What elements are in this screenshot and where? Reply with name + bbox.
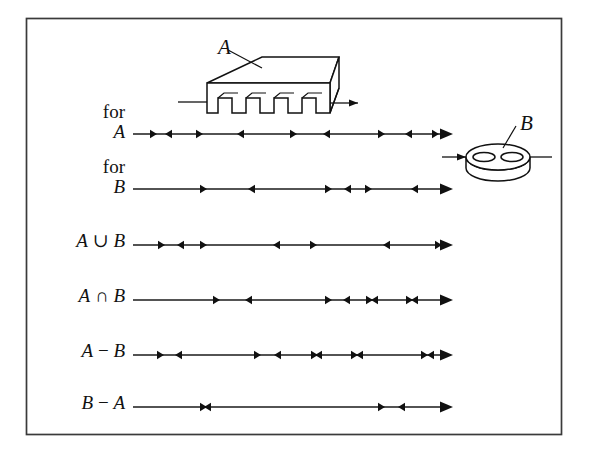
tick-mark (405, 130, 412, 138)
tick-mark (378, 130, 385, 138)
tick-mark (365, 185, 372, 193)
tick-mark (343, 296, 350, 304)
tick-mark (177, 241, 184, 249)
row-label-glyph: − (98, 340, 109, 361)
tick-mark (254, 351, 261, 359)
tick-mark (378, 403, 385, 411)
row-label-glyph: A (76, 230, 88, 251)
row-label-primary: for (15, 157, 125, 177)
row-label-a-union-b: A ∪ B (15, 231, 125, 251)
timelines-layer (133, 129, 453, 413)
timeline-for-b (133, 184, 453, 195)
row-label-secondary: A (15, 122, 125, 142)
tick-mark (411, 296, 418, 304)
tick-mark (200, 241, 207, 249)
tick-mark (310, 241, 317, 249)
row-label-glyph: A (79, 285, 91, 306)
tick-mark (427, 351, 434, 359)
tick-mark (344, 185, 351, 193)
row-label-a-minus-b: A − B (15, 341, 125, 361)
row-label-glyph: A (82, 340, 94, 361)
tick-mark (411, 185, 418, 193)
object-b-input-arrowhead (457, 154, 466, 161)
row-label-glyph: B (82, 392, 94, 413)
tick-mark (237, 130, 244, 138)
row-label-glyph: − (98, 392, 109, 413)
tick-mark (432, 130, 439, 138)
row-label-secondary: B (15, 177, 125, 197)
object-a-front-face (207, 83, 330, 113)
object-b-label: B (520, 112, 533, 134)
timeline-a-union-b (133, 240, 453, 251)
figure-root: A B forAforBA ∪ BA ∩ BA − BB − A (0, 0, 593, 453)
tick-mark (421, 351, 428, 359)
figure-canvas (0, 0, 593, 453)
timeline-arrowhead-for-b (440, 184, 453, 195)
object-a-label: A (218, 36, 231, 58)
timeline-arrowhead-a-intersect-b (440, 295, 453, 306)
tick-mark (150, 130, 157, 138)
tick-mark (196, 130, 203, 138)
object-b-hole-left (473, 153, 495, 162)
tick-mark (371, 296, 378, 304)
timeline-b-minus-a (133, 402, 453, 413)
tick-mark (398, 403, 405, 411)
row-label-glyph: B (113, 285, 125, 306)
row-label-a-intersect-b: A ∩ B (15, 286, 125, 306)
tick-mark (158, 241, 165, 249)
tick-mark (245, 296, 252, 304)
timeline-for-a (133, 129, 453, 140)
object-a-graphic (178, 50, 358, 113)
timeline-arrowhead-a-minus-b (440, 350, 453, 361)
tick-mark (273, 241, 280, 249)
tick-mark (323, 130, 330, 138)
timeline-a-minus-b (133, 350, 453, 361)
tick-mark (248, 185, 255, 193)
tick-mark (315, 351, 322, 359)
tick-mark (325, 185, 332, 193)
row-label-glyph: B (113, 340, 125, 361)
row-label-for-b: forB (15, 157, 125, 197)
object-a-output-arrowhead (349, 100, 358, 107)
tick-mark (274, 351, 281, 359)
tick-mark (325, 296, 332, 304)
tick-mark (213, 296, 220, 304)
row-label-glyph: B (113, 230, 125, 251)
object-b-hole-right (501, 153, 523, 162)
tick-mark (383, 241, 390, 249)
tick-mark (204, 403, 211, 411)
tick-mark (290, 130, 297, 138)
tick-mark (175, 351, 182, 359)
tick-mark (157, 351, 164, 359)
row-label-b-minus-a: B − A (15, 393, 125, 413)
tick-mark (200, 185, 207, 193)
row-label-glyph: ∪ (93, 230, 109, 251)
object-a-top-face (207, 57, 339, 83)
object-b-graphic (442, 126, 552, 181)
timeline-a-intersect-b (133, 295, 453, 306)
tick-mark (356, 351, 363, 359)
row-label-glyph: ∩ (95, 285, 109, 306)
timeline-arrowhead-for-a (440, 129, 453, 140)
row-label-glyph: A (113, 392, 125, 413)
tick-mark (165, 130, 172, 138)
row-label-primary: for (15, 102, 125, 122)
row-label-for-a: forA (15, 102, 125, 142)
timeline-arrowhead-b-minus-a (440, 402, 453, 413)
